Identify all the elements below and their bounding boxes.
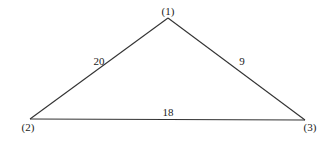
- node-2-label: (2): [22, 121, 35, 134]
- edge-2-3-weight: 18: [163, 106, 175, 118]
- triangle-graph-diagram: (1) (2) (3) 20 9 18: [0, 0, 330, 144]
- edge-2-3: [30, 119, 305, 120]
- node-1-label: (1): [162, 5, 175, 18]
- edge-1-2-weight: 20: [94, 55, 106, 67]
- edge-1-3-weight: 9: [239, 55, 245, 67]
- edge-1-3: [168, 18, 305, 120]
- edge-1-2: [30, 18, 168, 119]
- node-3-label: (3): [304, 121, 317, 134]
